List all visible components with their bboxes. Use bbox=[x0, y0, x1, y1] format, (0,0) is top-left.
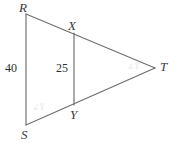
faint-mark-near-S: ∠Y bbox=[31, 102, 45, 112]
segment-ST bbox=[26, 68, 155, 125]
vertex-label-X: X bbox=[68, 19, 76, 32]
vertex-label-T: T bbox=[160, 60, 167, 73]
vertex-label-S: S bbox=[21, 128, 28, 141]
vertex-label-R: R bbox=[19, 1, 27, 14]
geometry-diagram: R S X Y T 40 25 ∠T ∠Y bbox=[0, 0, 178, 149]
vertex-label-Y: Y bbox=[70, 108, 77, 121]
faint-mark-near-T: ∠T bbox=[127, 61, 140, 71]
measure-label-RS: 40 bbox=[5, 62, 17, 74]
measure-label-XY: 25 bbox=[56, 62, 68, 74]
